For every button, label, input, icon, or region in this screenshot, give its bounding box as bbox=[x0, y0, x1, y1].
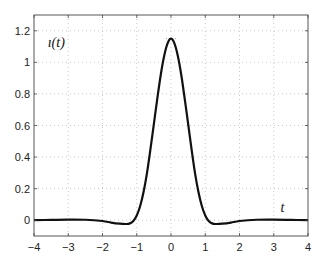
y-tick-label: 0 bbox=[24, 214, 30, 226]
y-tick-label: 1 bbox=[24, 56, 30, 68]
y-tick-label: 0.2 bbox=[15, 183, 30, 195]
annotations: ı(t)t bbox=[48, 35, 286, 216]
y-tick-label: 0.4 bbox=[15, 151, 30, 163]
grid-lines bbox=[34, 15, 308, 236]
line-chart: −4−3−2−101234 00.20.40.60.811.2 ı(t)t bbox=[0, 0, 323, 262]
x-tick-label: −1 bbox=[130, 241, 143, 253]
y-tick-label: 0.6 bbox=[15, 120, 30, 132]
x-tick-label: −2 bbox=[96, 241, 109, 253]
x-tick-label: 4 bbox=[305, 241, 311, 253]
x-tick-label: −4 bbox=[28, 241, 41, 253]
x-axis-ticks: −4−3−2−101234 bbox=[28, 15, 311, 253]
annotation-label: ı(t) bbox=[48, 35, 65, 51]
x-tick-label: −3 bbox=[62, 241, 75, 253]
y-tick-label: 1.2 bbox=[15, 25, 30, 37]
y-tick-label: 0.8 bbox=[15, 88, 30, 100]
annotation-label: t bbox=[281, 200, 286, 215]
x-tick-label: 3 bbox=[271, 241, 277, 253]
x-tick-label: 2 bbox=[236, 241, 242, 253]
x-tick-label: 1 bbox=[202, 241, 208, 253]
x-tick-label: 0 bbox=[168, 241, 174, 253]
